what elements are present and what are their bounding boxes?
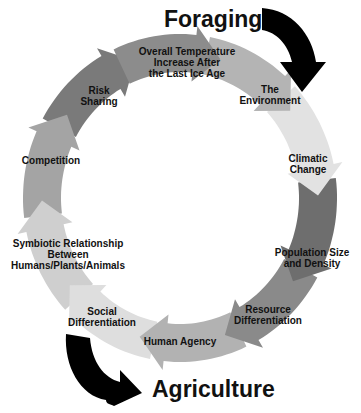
stage-label-risk: RiskSharing: [80, 85, 117, 107]
stage-label-social: SocialDifferentiation: [68, 306, 136, 328]
cycle-diagram: Foraging Agriculture Overall Temperature…: [0, 0, 361, 413]
stage-label-population: Population Sizeand Density: [275, 247, 349, 269]
stage-label-resource: ResourceDifferentiation: [234, 304, 302, 326]
stage-label-competition: Competition: [22, 155, 80, 166]
agriculture-title: Agriculture: [152, 376, 275, 403]
stage-label-symbiotic: Symbiotic RelationshipBetweenHumans/Plan…: [11, 238, 125, 271]
agriculture-arrow-icon: [66, 334, 142, 406]
stage-label-environment: TheEnvironment: [239, 84, 300, 106]
stage-label-temperature: Overall TemperatureIncrease Afterthe Las…: [139, 46, 236, 79]
foraging-arrow-icon: [262, 8, 326, 92]
stage-label-climatic: ClimaticChange: [289, 153, 328, 175]
foraging-title: Foraging: [164, 6, 262, 33]
stage-label-agency: Human Agency: [144, 336, 216, 347]
